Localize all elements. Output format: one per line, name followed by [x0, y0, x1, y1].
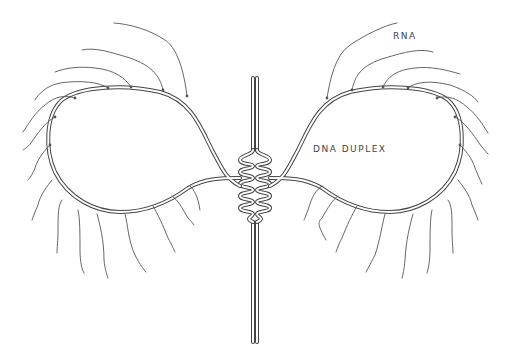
left-dna-loop [48, 87, 240, 212]
supercoil-folds [240, 150, 270, 222]
rna-label: RNA [393, 31, 417, 41]
dna-diagram: .dna-outer { fill: none; stroke: #444; s… [0, 0, 511, 360]
central-strand [253, 78, 257, 342]
dna-duplex-label: DNA DUPLEX [313, 144, 387, 154]
